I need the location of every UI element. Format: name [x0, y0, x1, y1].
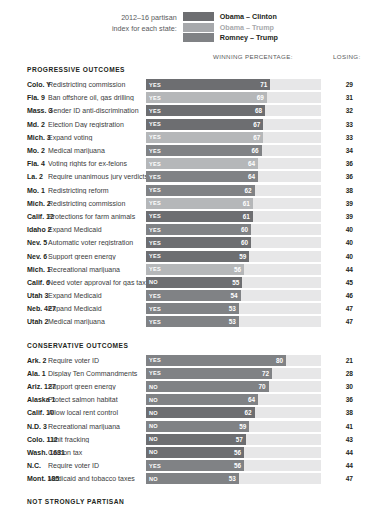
measure-label: Carbon tax	[48, 449, 146, 456]
measure-label: Ban offshore oil, gas drilling	[48, 94, 146, 101]
bar-fill: YES64	[146, 158, 258, 169]
measure-row: Ariz. 127Support green energyNO7030	[0, 380, 373, 393]
losing-percentage-value: 46	[321, 292, 361, 299]
losing-percentage-value: 47	[321, 475, 361, 482]
losing-percentage-value: 41	[321, 423, 361, 430]
bar-fill: YES62	[146, 185, 255, 196]
vote-label: YES	[149, 174, 161, 180]
legend-swatch-obama_clinton	[183, 12, 214, 21]
measure-label: Redistricting reform	[48, 187, 146, 194]
state-label: Nev. 6	[0, 253, 48, 260]
bar-fill: YES64	[146, 171, 258, 182]
bar-track: NO64	[146, 394, 321, 405]
section-title: CONSERVATIVE OUTCOMES	[0, 342, 373, 349]
vote-label: YES	[149, 266, 161, 272]
vote-label: YES	[149, 306, 161, 312]
state-label: Ariz. 127	[0, 383, 48, 390]
section-title: NOT STRONGLY PARTISAN	[0, 498, 373, 505]
bar-fill: YES56	[146, 264, 244, 275]
measure-label: Recreational marijuana	[48, 266, 146, 273]
losing-percentage-value: 43	[321, 436, 361, 443]
state-label: Mich. 3	[0, 134, 48, 141]
winning-percentage-value: 57	[236, 436, 243, 443]
losing-percentage-value: 30	[321, 383, 361, 390]
state-label: Utah 3	[0, 292, 48, 299]
winning-percentage-value: 56	[234, 266, 241, 273]
bar-fill: YES54	[146, 290, 241, 301]
bar-track: YES68	[146, 105, 321, 116]
winning-percentage-value: 59	[239, 253, 246, 260]
legend-label-obama_clinton: Obama – Clinton	[214, 12, 277, 21]
bar-fill: NO57	[146, 434, 246, 445]
winning-percentage-value: 53	[229, 318, 236, 325]
state-label: Ala. 1	[0, 370, 48, 377]
bar-fill: YES61	[146, 198, 253, 209]
bar-track: YES71	[146, 79, 321, 90]
bar-fill: NO56	[146, 447, 244, 458]
measure-label: Medical marijuana	[48, 318, 146, 325]
bar-track: YES61	[146, 211, 321, 222]
bar-fill: YES60	[146, 224, 251, 235]
bar-track: YES53	[146, 303, 321, 314]
winning-percentage-value: 68	[255, 107, 262, 114]
winning-percentage-header: WINNING PERCENTAGE:	[213, 53, 293, 60]
winning-percentage-value: 60	[241, 226, 248, 233]
chart-sections: PROGRESSIVE OUTCOMESColo. YRedistricting…	[0, 66, 373, 509]
measure-label: Redistricting commission	[48, 200, 146, 207]
measure-label: Require unanimous jury verdicts	[48, 173, 146, 180]
winning-percentage-value: 67	[253, 134, 260, 141]
vote-label: NO	[149, 449, 158, 455]
bar-fill: NO64	[146, 394, 258, 405]
winning-percentage-value: 59	[239, 423, 246, 430]
bar-track: NO59	[146, 421, 321, 432]
bar-fill: NO62	[146, 407, 255, 418]
state-label: Calif. 12	[0, 213, 48, 220]
vote-label: YES	[149, 319, 161, 325]
state-label: Mo. 1	[0, 187, 48, 194]
state-label: Mass. 3	[0, 107, 48, 114]
winning-percentage-value: 64	[248, 396, 255, 403]
losing-percentage-value: 38	[321, 187, 361, 194]
measure-label: Expand Medicaid	[48, 292, 146, 299]
bar-fill: YES53	[146, 316, 239, 327]
vote-label: YES	[149, 161, 161, 167]
vote-label: YES	[149, 134, 161, 140]
state-label: N.C.	[0, 462, 48, 469]
vote-label: YES	[149, 148, 161, 154]
measure-label: Allow local rent control	[48, 409, 146, 416]
bar-track: NO53	[146, 473, 321, 484]
measure-row: Idaho 2Expand MedicaidYES6040	[0, 223, 373, 236]
winning-percentage-value: 53	[229, 475, 236, 482]
vote-label: YES	[149, 95, 161, 101]
winning-percentage-value: 55	[232, 279, 239, 286]
legend-items: Obama – ClintonObama – TrumpRomney – Tru…	[183, 12, 278, 42]
bar-fill: YES53	[146, 303, 239, 314]
measure-label: Protections for farm animals	[48, 213, 146, 220]
winning-percentage-value: 64	[248, 160, 255, 167]
measure-label: Recreational marijuana	[48, 423, 146, 430]
bar-fill: NO53	[146, 473, 239, 484]
measure-row: Nev. 6Support green energyYES5940	[0, 249, 373, 262]
state-label: Mont. 185	[0, 475, 48, 482]
bar-track: NO55	[146, 277, 321, 288]
winning-percentage-value: 70	[258, 383, 265, 390]
legend-label-romney_trump: Romney – Trump	[214, 33, 278, 42]
section-title: PROGRESSIVE OUTCOMES	[0, 66, 373, 73]
state-label: Colo. Y	[0, 81, 48, 88]
losing-percentage-value: 38	[321, 409, 361, 416]
bar-fill: YES68	[146, 105, 265, 116]
bar-track: YES61	[146, 198, 321, 209]
winning-percentage-value: 80	[276, 357, 283, 364]
bar-track: YES53	[146, 316, 321, 327]
bar-track: YES66	[146, 145, 321, 156]
vote-label: YES	[149, 370, 161, 376]
losing-percentage-value: 39	[321, 213, 361, 220]
winning-percentage-value: 61	[243, 200, 250, 207]
losing-percentage-value: 40	[321, 239, 361, 246]
losing-percentage-value: 47	[321, 305, 361, 312]
losing-percentage-value: 39	[321, 200, 361, 207]
measure-row: La. 2Require unanimous jury verdictsYES6…	[0, 170, 373, 183]
state-label: Mich. 1	[0, 266, 48, 273]
bar-track: YES67	[146, 119, 321, 130]
section-0: PROGRESSIVE OUTCOMESColo. YRedistricting…	[0, 66, 373, 329]
